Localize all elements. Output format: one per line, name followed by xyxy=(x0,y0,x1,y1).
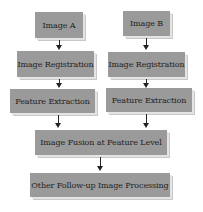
left-image-registration-box: Image Registration xyxy=(17,51,94,77)
image-a-box: Image A xyxy=(35,12,83,38)
arrow-down-icon xyxy=(143,45,149,50)
image-b-box: Image B xyxy=(123,11,170,36)
right-feature-extraction-box: Feature Extraction xyxy=(106,88,192,112)
image-fusion-box: Image Fusion at Feature Level xyxy=(35,130,167,155)
arrow-down-icon xyxy=(97,166,103,171)
arrow-down-icon xyxy=(56,83,62,88)
arrow-down-icon xyxy=(56,45,62,50)
arrow-down-icon xyxy=(143,123,149,128)
followup-processing-box: Other Follow-up Image Processing xyxy=(30,173,170,197)
right-image-registration-box: Image Registration xyxy=(108,52,185,77)
left-feature-extraction-box: Feature Extraction xyxy=(10,89,95,113)
arrow-down-icon xyxy=(55,123,61,128)
